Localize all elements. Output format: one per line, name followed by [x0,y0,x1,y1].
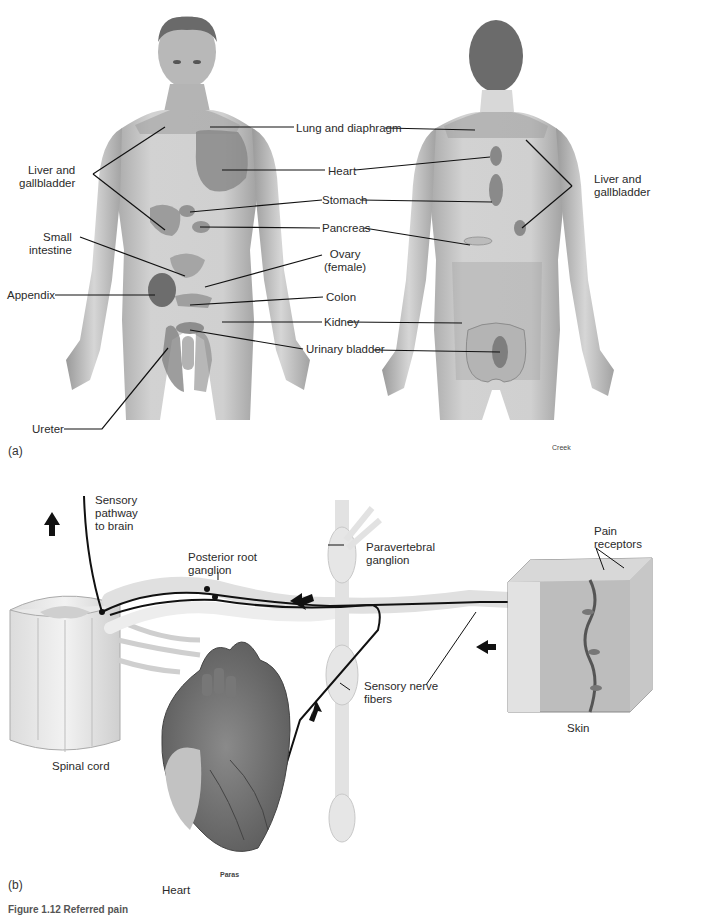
arrow-up-right-icon [309,700,322,722]
label-urinary-bladder: Urinary bladder [306,343,385,356]
label-spinal-cord: Spinal cord [52,760,110,773]
label-pain-receptors: Pain receptors [594,525,642,551]
anatomy-illustration [0,0,706,916]
label-lung-diaphragm: Lung and diaphragm [296,122,402,135]
label-skin: Skin [567,722,589,735]
credit-creek: Creek [552,444,571,451]
skin-block [508,558,652,712]
label-ureter: Ureter [32,423,64,436]
label-heart: Heart [328,165,356,178]
label-ovary: Ovary (female) [324,248,366,274]
label-appendix: Appendix [7,289,55,302]
panel-a-letter: (a) [8,444,23,458]
heart-zone [196,130,248,192]
arrow-left-icon [476,640,496,654]
label-pancreas: Pancreas [322,222,371,235]
heart-illustration [162,642,290,851]
label-sensory-nerve-fibers: Sensory nerve fibers [364,680,438,706]
panel-b-letter: (b) [8,878,23,892]
label-liver-gallbladder-back: Liver and gallbladder [594,173,650,199]
label-kidney: Kidney [324,316,359,329]
label-stomach: Stomach [322,194,367,207]
label-small-intestine: Small intestine [29,231,72,257]
credit-paras: Paras [220,871,239,878]
label-posterior-root-ganglion: Posterior root ganglion [188,551,257,577]
label-sensory-pathway: Sensory pathway to brain [95,494,138,533]
figure-caption: Figure 1.12 Referred pain [8,904,128,915]
label-liver-gallbladder-front: Liver and gallbladder [19,164,75,190]
nerve-bundle [110,585,510,628]
label-paravertebral-ganglion: Paravertebral ganglion [366,541,435,567]
label-heart-b: Heart [162,884,190,897]
back-body-figure [382,20,614,420]
label-colon: Colon [326,291,356,304]
arrow-up-icon [44,512,60,536]
front-body-figure [66,16,310,420]
